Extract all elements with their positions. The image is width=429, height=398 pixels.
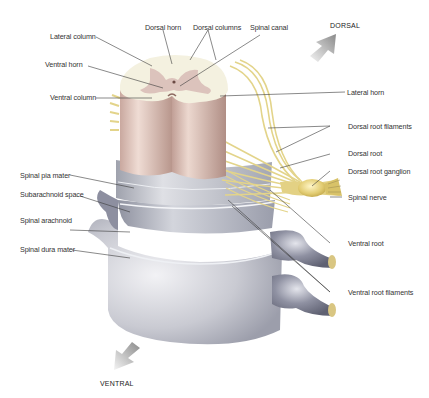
label-spinal-canal: Spinal canal bbox=[250, 23, 288, 32]
label-lateral-column: Lateral column bbox=[50, 32, 96, 41]
spinal-cord-cross-section bbox=[120, 55, 228, 103]
label-ventral-root: Ventral root bbox=[348, 239, 384, 248]
label-dorsal-columns: Dorsal columns bbox=[193, 23, 241, 32]
label-ventral-root-filaments: Ventral root filaments bbox=[348, 288, 413, 297]
dorsal-root-ganglion-shape bbox=[298, 179, 326, 197]
spinal-cord-diagram: Dorsal horn Dorsal columns Spinal canal … bbox=[0, 0, 429, 398]
label-spinal-pia-mater: Spinal pia mater bbox=[20, 171, 70, 180]
spinal-canal-dot bbox=[172, 80, 175, 83]
left-root-stubs bbox=[110, 95, 120, 130]
label-ventral-horn: Ventral horn bbox=[45, 60, 83, 69]
label-spinal-arachnoid: Spinal arachnoid bbox=[20, 216, 72, 225]
label-subarachnoid-space: Subarachnoid space bbox=[20, 190, 84, 199]
dorsal-arrow-icon bbox=[310, 34, 336, 62]
label-dorsal-root: Dorsal root bbox=[348, 149, 382, 158]
ventral-arrow-icon bbox=[114, 342, 140, 370]
label-ventral-column: Ventral column bbox=[50, 93, 96, 102]
label-spinal-dura-mater: Spinal dura mater bbox=[20, 245, 75, 254]
label-lateral-horn: Lateral horn bbox=[347, 88, 384, 97]
label-dorsal-root-ganglion: Dorsal root ganglion bbox=[348, 167, 410, 176]
right-cord-column bbox=[172, 90, 226, 179]
label-dorsal-direction: DORSAL bbox=[330, 22, 360, 29]
label-dorsal-root-filaments: Dorsal root filaments bbox=[348, 122, 412, 131]
left-cord-column bbox=[120, 90, 172, 176]
label-dorsal-horn: Dorsal horn bbox=[145, 23, 181, 32]
label-ventral-direction: VENTRAL bbox=[100, 380, 134, 387]
label-spinal-nerve: Spinal nerve bbox=[348, 193, 387, 202]
